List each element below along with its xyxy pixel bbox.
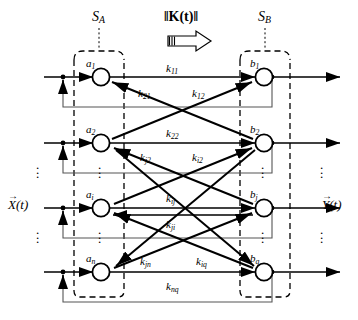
label-node-an: an xyxy=(86,253,95,265)
ellipsis-right-inner-lower: ... xyxy=(261,228,264,242)
label-edge-kj2: kj2 xyxy=(140,152,151,164)
label-node-b1: b1 xyxy=(250,58,259,70)
node-an xyxy=(92,263,109,280)
node-ai xyxy=(92,199,109,216)
label-node-ai: ai xyxy=(86,189,94,201)
ellipsis-right-outer-lower: ... xyxy=(320,228,323,242)
ellipsis-right-inner-upper: ... xyxy=(261,163,264,177)
node-b1 xyxy=(255,68,272,85)
ellipsis-left-inner-lower: ... xyxy=(98,228,101,242)
label-set-b: SB xyxy=(258,10,271,25)
label-edge-kiq: kiq xyxy=(196,256,207,268)
label-edge-k22: k22 xyxy=(166,128,179,140)
label-node-b2: b2 xyxy=(250,124,259,136)
label-edge-k11: k11 xyxy=(166,63,178,75)
label-edge-k12: k12 xyxy=(192,88,205,100)
node-a1 xyxy=(92,68,109,85)
node-bj xyxy=(255,199,272,216)
label-edge-kji: kji xyxy=(166,219,175,231)
label-edge-k21: k21 xyxy=(138,88,151,100)
diagram-canvas: SA SB ‖K(t)‖ → X(t) → Y(t) a1 a2 ai an b… xyxy=(0,0,358,320)
label-node-a1: a1 xyxy=(86,58,95,70)
label-set-a: SA xyxy=(92,10,105,25)
label-input-vector: → X(t) xyxy=(8,198,28,211)
node-b2 xyxy=(255,134,272,151)
node-circles xyxy=(92,68,272,280)
cross-connections xyxy=(112,82,255,268)
label-edge-ki2: ki2 xyxy=(192,152,203,164)
node-bq xyxy=(255,263,272,280)
label-node-bj: bj xyxy=(250,189,258,201)
label-node-a2: a2 xyxy=(86,124,95,136)
ellipsis-left-outer-upper: ... xyxy=(36,163,39,177)
ellipsis-left-inner-upper: ... xyxy=(98,163,101,177)
label-output-vector: → Y(t) xyxy=(322,198,342,211)
node-a2 xyxy=(92,134,109,151)
label-edge-kjn: kjn xyxy=(140,256,151,268)
label-edge-knq: knq xyxy=(166,281,179,293)
label-node-bq: bq xyxy=(250,253,259,265)
label-edge-kij: kij xyxy=(166,193,175,205)
diagram-svg xyxy=(0,0,358,320)
ellipsis-left-outer-lower: ... xyxy=(36,228,39,242)
block-arrow-right-icon xyxy=(168,31,211,51)
ellipsis-right-outer-upper: ... xyxy=(320,163,323,177)
label-kernel-norm: ‖K(t)‖ xyxy=(164,10,198,24)
